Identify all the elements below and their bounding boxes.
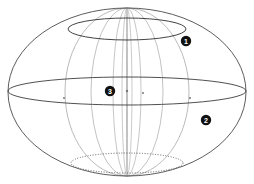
equator-dot-3 <box>142 92 144 94</box>
marker-1-label: 1 <box>184 38 188 45</box>
sphere-diagram-canvas: 1 2 3 <box>0 0 254 184</box>
equator-dot-1 <box>63 97 65 99</box>
equator-dot-4 <box>189 97 191 99</box>
marker-3-label: 3 <box>108 88 112 95</box>
sphere-diagram-figure: 1 2 3 <box>0 0 254 184</box>
marker-1[interactable]: 1 <box>181 36 191 46</box>
marker-3[interactable]: 3 <box>105 86 115 96</box>
equator-dot-2 <box>126 90 128 92</box>
marker-2[interactable]: 2 <box>201 115 211 125</box>
marker-2-label: 2 <box>204 117 208 124</box>
